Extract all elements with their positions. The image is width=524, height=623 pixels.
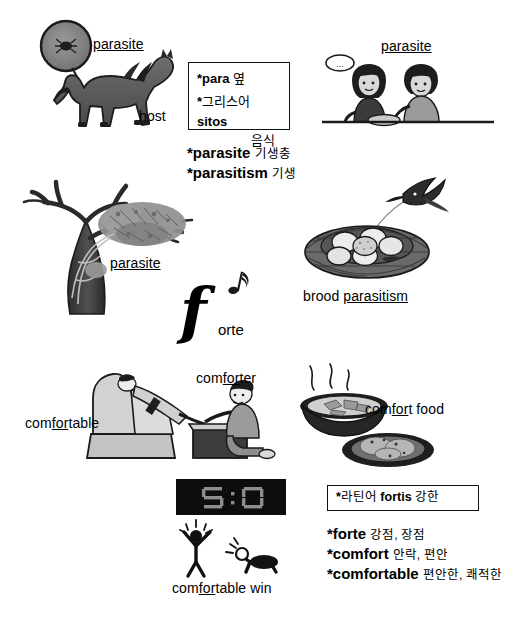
tree-parasite-label-text: parasite <box>110 255 161 271</box>
score-separator <box>231 492 234 504</box>
recliner-illustration <box>75 362 290 470</box>
tree-drawing <box>18 176 203 316</box>
loser-head <box>236 548 248 560</box>
winner-head <box>190 530 202 542</box>
mistletoe-clump <box>98 202 186 246</box>
def-ko: 강점, 장점 <box>370 528 425 542</box>
chair-base <box>87 434 175 458</box>
parasite-definitions: *parasite 기생충 *parasitism 기생 <box>187 143 296 183</box>
definition-row: *forte 강점, 장점 <box>327 524 502 544</box>
def-en: forte <box>333 525 366 542</box>
loser-body <box>250 555 278 569</box>
cuckoo-egg <box>353 237 377 256</box>
definition-row: *comfortable 편안한, 쾌적한 <box>327 564 502 584</box>
comfort-food-label: comfort food <box>365 401 444 417</box>
cuckoo-bird <box>385 178 449 212</box>
comforter-arm <box>205 412 231 422</box>
forte-f-glyph: f <box>180 280 207 342</box>
horse-host-label: host <box>139 108 166 124</box>
nest-drawing <box>285 172 485 287</box>
scoreboard-panel <box>176 479 286 515</box>
root-para-ko: 옆 <box>233 71 245 86</box>
tree-parasite-label: parasite <box>110 255 161 271</box>
stick-figures-illustration <box>178 518 290 578</box>
comfortable-label: comfortable <box>25 415 99 431</box>
greek-roots-box: *para 옆 *그리스어 sitos 음식 <box>188 62 290 130</box>
recliner-drawing <box>75 362 290 470</box>
fortis-ko: 강한 <box>415 488 439 507</box>
stick-figures-drawing <box>178 518 290 578</box>
speech-bubble-dots: ... <box>336 59 344 69</box>
brood-word: brood <box>303 288 343 304</box>
comfortable-win-label: comfortable win <box>172 580 272 596</box>
root-sitos-lang: 그리스어 <box>202 94 250 109</box>
fortis-word: fortis <box>380 488 411 507</box>
root-line-para: *para 옆 <box>197 69 281 89</box>
dinner-parasite-label-text: parasite <box>381 38 432 54</box>
definition-row: *parasitism 기생 <box>187 163 296 183</box>
comforter-torso <box>227 404 259 438</box>
def-ko: 기생충 <box>255 147 291 161</box>
def-ko: 안락, 편안 <box>393 548 448 562</box>
nest-illustration <box>285 172 485 287</box>
tree-parasite-illustration <box>18 176 203 316</box>
mistletoe-sprout <box>85 262 107 278</box>
shared-bowl <box>368 115 400 126</box>
def-en: comfort <box>333 545 389 562</box>
root-sitos-word: sitos <box>197 114 227 129</box>
comforter-foot <box>259 450 275 459</box>
brood-parasitism-label: brood parasitism <box>303 288 408 304</box>
horse-parasite-label: parasite <box>93 36 144 52</box>
def-ko: 편안한, 쾌적한 <box>423 568 502 582</box>
score-away-digit <box>242 487 263 508</box>
music-note-icon <box>226 266 258 300</box>
fortis-definitions: *forte 강점, 장점 *comfort 안락, 편안 *comfortab… <box>327 524 502 584</box>
parasitism-word: parasitism <box>343 288 408 304</box>
score-home-digit <box>202 487 223 508</box>
horse-ear-1 <box>161 49 167 57</box>
dinner-parasite-illustration: ... <box>318 50 498 138</box>
def-en: comfortable <box>333 565 419 582</box>
steam-icon <box>310 364 349 390</box>
man-torso <box>404 96 439 122</box>
illustration-canvas: parasite host *para 옆 *그리스어 sitos 음식 *pa… <box>0 0 524 623</box>
def-en: parasite <box>193 144 251 161</box>
def-en: parasitism <box>193 164 268 181</box>
dinner-parasite-label: parasite <box>381 38 432 54</box>
scoreboard-display <box>176 479 286 515</box>
root-para-word: para <box>202 71 229 86</box>
comforter-label: comforter <box>196 370 256 386</box>
horse-parasite-label-text: parasite <box>93 36 144 52</box>
definition-row: *comfort 안락, 편안 <box>327 544 502 564</box>
egg <box>379 237 403 256</box>
definition-row: *parasite 기생충 <box>187 143 296 163</box>
tick-body <box>60 41 72 50</box>
fortis-lang: 라틴어 <box>341 488 377 507</box>
dinner-drawing: ... <box>318 50 498 138</box>
forte-symbol-group: f orte <box>178 286 278 348</box>
egg <box>327 247 351 265</box>
forte-rest-text: orte <box>218 321 244 338</box>
latin-root-box: *라틴어 fortis 강한 <box>327 485 479 511</box>
